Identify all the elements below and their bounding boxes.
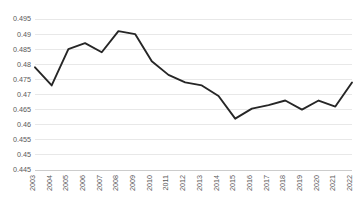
y-axis-tick-label: 0.475 <box>13 75 31 84</box>
x-axis-tick-label: 2016 <box>245 175 254 191</box>
y-axis-tick-label: 0.47 <box>17 90 31 99</box>
y-axis-tick-label: 0.455 <box>13 135 31 144</box>
y-axis-tick-label: 0.48 <box>17 60 31 69</box>
y-axis-tick-label: 0.445 <box>13 165 31 174</box>
x-axis-tick-label: 2019 <box>295 175 304 191</box>
x-axis-tick-label: 2022 <box>345 175 354 191</box>
x-axis-tick-label: 2003 <box>28 175 37 191</box>
y-axis-tick-label: 0.49 <box>17 30 31 39</box>
y-axis-tick-label: 0.485 <box>13 45 31 54</box>
chart-container: 0.4450.450.4550.460.4650.470.4750.480.48… <box>0 0 363 206</box>
line-chart-plot: 0.4450.450.4550.460.4650.470.4750.480.48… <box>0 0 363 206</box>
data-series-line <box>35 31 352 119</box>
x-axis-tick-label: 2015 <box>228 175 237 191</box>
x-axis-tick-label: 2010 <box>145 175 154 191</box>
x-axis-tick-label: 2013 <box>195 175 204 191</box>
x-axis-tick-label: 2011 <box>161 175 170 190</box>
x-axis-tick-label: 2021 <box>328 175 337 191</box>
x-axis-tick-label: 2020 <box>312 175 321 191</box>
y-axis-tick-label: 0.45 <box>17 150 31 159</box>
x-axis-tick-label: 2007 <box>95 175 104 191</box>
x-axis-tick-label: 2004 <box>45 175 54 191</box>
y-axis-tick-label: 0.495 <box>13 14 31 23</box>
x-axis-tick-label: 2008 <box>111 175 120 191</box>
x-axis-tick-label: 2009 <box>128 175 137 191</box>
y-axis-tick-label: 0.46 <box>17 120 31 129</box>
x-axis-tick-label: 2018 <box>278 175 287 191</box>
x-axis-tick-label: 2012 <box>178 175 187 191</box>
x-axis-tick-label: 2006 <box>78 175 87 191</box>
x-axis-tick-label: 2017 <box>262 175 271 191</box>
x-axis-tick-label: 2005 <box>61 175 70 191</box>
x-axis-tick-label: 2014 <box>212 175 221 191</box>
y-axis-tick-label: 0.465 <box>13 105 31 114</box>
